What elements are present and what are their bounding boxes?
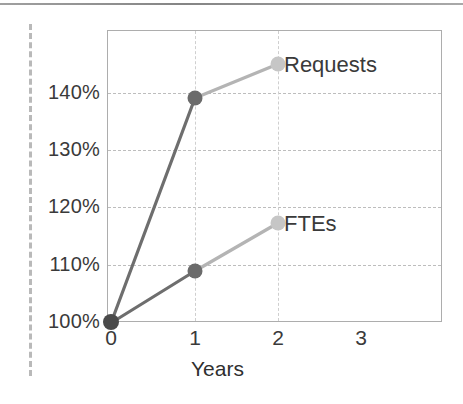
plot-area xyxy=(107,30,442,322)
chart-figure: 140% 130% 120% 110% 100% 0 1 2 3 Years xyxy=(0,0,463,404)
ftes-segment-1-2 xyxy=(195,223,278,271)
margin-dashed-line xyxy=(29,24,32,376)
requests-point-year1 xyxy=(188,91,203,106)
origin-point-marker xyxy=(103,314,119,330)
series-label-ftes: FTEs xyxy=(284,211,337,237)
requests-segment-0-1 xyxy=(111,98,195,323)
series-ftes xyxy=(111,216,286,324)
ftes-segment-0-1 xyxy=(111,271,195,323)
requests-segment-1-2 xyxy=(195,64,278,98)
y-tick-140: 140% xyxy=(48,81,100,104)
series-requests xyxy=(111,57,286,324)
x-tick-1: 1 xyxy=(189,326,201,350)
y-tick-100: 100% xyxy=(48,310,100,333)
y-tick-130: 130% xyxy=(48,138,100,161)
series-svg-layer xyxy=(108,31,443,323)
x-tick-3: 3 xyxy=(355,326,367,350)
series-label-requests: Requests xyxy=(284,52,377,78)
y-tick-120: 120% xyxy=(48,195,100,218)
page-top-rule xyxy=(0,3,463,5)
x-axis-title-text: Years xyxy=(191,357,244,381)
x-tick-2: 2 xyxy=(272,326,284,350)
ftes-point-year1 xyxy=(188,264,203,279)
y-tick-110: 110% xyxy=(50,253,100,276)
x-axis-title: Years xyxy=(0,357,463,381)
